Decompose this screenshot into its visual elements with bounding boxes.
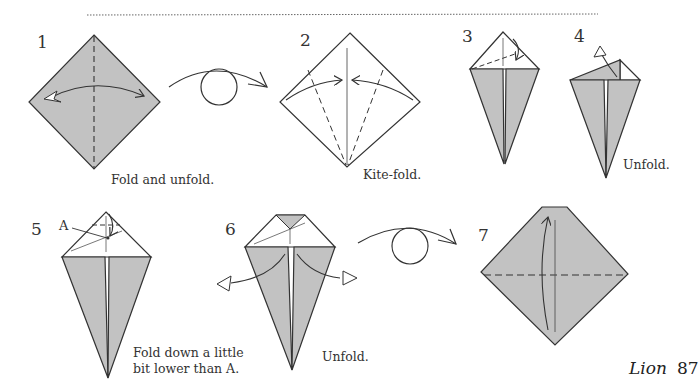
page-number: 87: [677, 358, 699, 378]
step-number: 3: [462, 28, 473, 45]
step-7-diagram: [481, 207, 628, 345]
step-1-caption: Fold and unfold.: [111, 172, 214, 188]
step-number: 4: [574, 28, 585, 45]
turn-over-icon: [358, 228, 456, 264]
step-4-caption: Unfold.: [623, 157, 670, 173]
step-5-caption-line2: bit lower than A.: [133, 361, 239, 377]
step-1-diagram: [29, 35, 160, 169]
step-number: 7: [478, 227, 489, 244]
model-title: Lion: [629, 358, 667, 378]
page-footer: Lion87: [629, 358, 699, 378]
step-2-caption: Kite-fold.: [363, 167, 421, 183]
unfold-arrowhead-icon: [343, 271, 357, 285]
step-number: 2: [300, 32, 311, 49]
step-number: 5: [31, 221, 42, 238]
step-6-caption: Unfold.: [322, 349, 369, 365]
unfold-arrowhead-icon: [217, 276, 231, 291]
step-2-diagram: [280, 33, 420, 167]
step-3-diagram: [470, 32, 539, 164]
unfold-arrowhead-icon: [594, 46, 606, 57]
step-number: 6: [225, 221, 236, 238]
turn-over-icon: [169, 69, 267, 105]
reference-label-a: A: [59, 218, 68, 235]
step-number: 1: [37, 34, 48, 51]
step-5-caption-line1: Fold down a little: [133, 345, 244, 361]
dotted-divider: [87, 14, 598, 15]
